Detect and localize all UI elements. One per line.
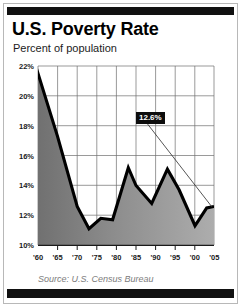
x-tick-label: '05	[203, 253, 225, 262]
y-tick-label: 14%	[10, 181, 34, 190]
data-point-callout: 12.6%	[136, 112, 165, 124]
chart-card: U.S. Poverty Rate Percent of population	[0, 0, 241, 307]
y-tick-label: 16%	[10, 152, 34, 161]
y-tick-label: 20%	[10, 92, 34, 101]
y-tick-label: 22%	[10, 62, 34, 71]
y-tick-label: 12%	[10, 211, 34, 220]
source-note: Source: U.S. Census Bureau	[38, 274, 154, 284]
y-tick-label: 18%	[10, 122, 34, 131]
y-tick-label: 10%	[10, 241, 34, 250]
